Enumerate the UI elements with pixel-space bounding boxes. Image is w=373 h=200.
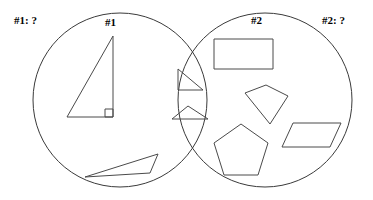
shape-obtuse-thin-triangle	[85, 154, 158, 177]
set-1-answer-label: #1: ?	[14, 14, 37, 26]
shape-rectangle	[214, 39, 273, 69]
right-angle-marker-icon	[105, 109, 113, 117]
shape-small-right-triangle	[178, 69, 203, 90]
shape-small-flat-triangle	[172, 106, 208, 119]
set-1-title-label: #1	[105, 16, 116, 28]
shape-pentagon	[214, 124, 268, 175]
shape-kite-quadrilateral	[245, 85, 288, 124]
venn-diagram-graphic	[0, 0, 373, 200]
shape-right-triangle-large	[67, 36, 113, 117]
set-2-answer-label: #2: ?	[322, 14, 345, 26]
set-2-title-label: #2	[251, 14, 262, 26]
shape-parallelogram	[282, 123, 341, 147]
venn-circle-set-1	[33, 13, 207, 187]
region-intersection	[172, 69, 208, 119]
region-set-2-only	[214, 39, 341, 175]
venn-diagram-canvas: #1: ? #1 #2 #2: ?	[0, 0, 373, 200]
region-set-1-only	[67, 36, 158, 177]
